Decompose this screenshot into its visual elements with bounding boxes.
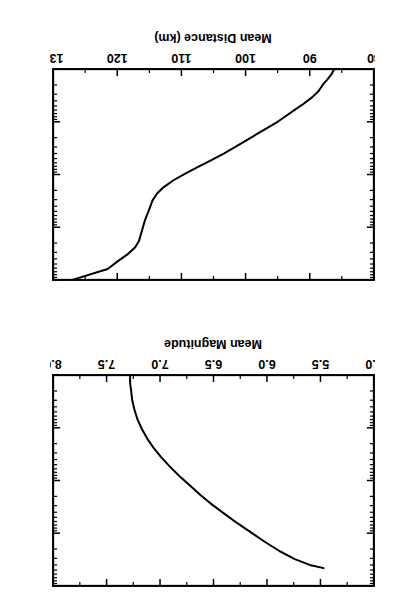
x-tick-label: 80 [367,51,375,65]
magnitude-plot-svg: 5.05.56.06.57.07.58.0 10-510-410-310-210… [50,337,375,587]
distance-axis-ticks [53,69,374,280]
magnitude-x-tick-labels: 5.05.56.06.57.07.58.0 [50,357,375,371]
distance-x-tick-labels: 8090100110120130 [50,51,375,65]
rotated-figure-wrapper: 5.05.56.06.57.07.58.0 10-510-410-310-210… [0,0,401,609]
x-tick-label: 130 [50,51,64,65]
distance-panel: 8090100110120130 10-510-410-310-210-1 Me… [50,31,375,281]
x-tick-label: 100 [235,51,256,65]
magnitude-exceedance-curve [130,375,324,568]
x-tick-label: 5.0 [365,357,375,371]
figure-canvas: 5.05.56.06.57.07.58.0 10-510-410-310-210… [0,0,401,609]
distance-plot-svg: 8090100110120130 10-510-410-310-210-1 Me… [50,31,375,281]
x-tick-label: 8.0 [50,357,62,371]
magnitude-panel: 5.05.56.06.57.07.58.0 10-510-410-310-210… [50,337,375,587]
magnitude-x-axis-title: Mean Magnitude [164,337,262,351]
distance-plot-frame [53,69,374,280]
x-tick-label: 6.5 [205,357,222,371]
x-tick-label: 7.0 [151,357,168,371]
x-tick-label: 5.5 [312,357,329,371]
x-tick-label: 120 [107,51,128,65]
x-tick-label: 6.0 [258,357,275,371]
distance-exceedance-curve [72,69,334,280]
magnitude-plot-frame [53,375,374,586]
x-tick-label: 7.5 [98,357,115,371]
x-tick-label: 90 [303,51,317,65]
magnitude-axis-ticks [53,375,374,586]
x-tick-label: 110 [171,51,191,65]
distance-x-axis-title: Mean Distance (km) [154,31,271,45]
